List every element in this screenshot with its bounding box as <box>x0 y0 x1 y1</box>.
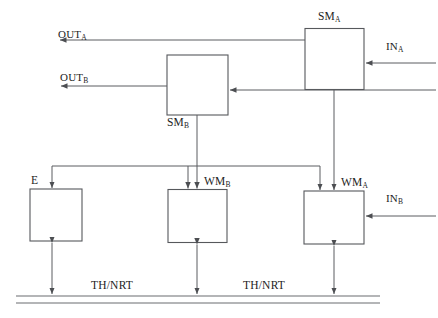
port-label-in-b: INB <box>386 193 403 204</box>
block-label-sm-a: SMA <box>318 11 340 23</box>
bus-label-th-nrt-right: TH/NRT <box>243 280 285 292</box>
diagram-canvas <box>0 0 438 318</box>
port-label-out-b: OUTB <box>60 72 88 83</box>
block-label-sm-b: SMB <box>167 117 189 129</box>
block-diagram: SMA SMB E WMB WMA OUTA OUTB INA INB TH/N… <box>0 0 438 318</box>
port-label-in-a: INA <box>386 41 403 52</box>
bus-label-th-nrt-left: TH/NRT <box>91 280 133 292</box>
block-sm-a <box>305 29 364 90</box>
block-e <box>30 189 82 241</box>
block-wm-a <box>304 191 364 244</box>
port-label-out-a: OUTA <box>58 29 87 40</box>
block-label-wm-a: WMA <box>341 177 368 189</box>
block-sm-b <box>167 55 228 115</box>
block-label-wm-b: WMB <box>204 176 231 188</box>
block-label-e: E <box>31 175 38 187</box>
block-wm-b <box>168 190 227 243</box>
